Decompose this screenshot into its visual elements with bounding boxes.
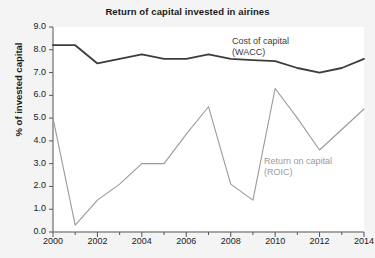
chart-container: Return of capital invested in airines % … [0,0,375,258]
series-group [53,45,364,225]
series-line-wacc [53,45,364,72]
annotation-roic-line1: Return on capital [264,156,332,167]
annotation-roic-line2: (ROIC) [264,167,332,178]
chart-canvas [0,0,375,258]
annotation-wacc-line2: (WACC) [232,47,289,58]
annotation-cost-of-capital: Cost of capital (WACC) [232,36,289,58]
annotation-return-on-capital: Return on capital (ROIC) [264,156,332,178]
annotation-wacc-line1: Cost of capital [232,36,289,47]
axis-group [49,27,364,237]
